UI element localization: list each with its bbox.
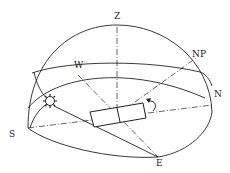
label-north-pole: NP [192, 50, 206, 59]
label-south: S [9, 130, 15, 139]
label-east: E [156, 159, 163, 168]
label-west: W [74, 61, 83, 70]
sun-path-arc-inner [28, 78, 205, 108]
label-zenith: Z [114, 12, 120, 21]
meridian-arc-lower [30, 104, 48, 128]
label-north: N [214, 90, 222, 99]
sun-icon [43, 94, 57, 108]
celestial-hemisphere-diagram [0, 0, 230, 173]
sun-path-arc-outer [32, 63, 212, 86]
tracker-panel-icon [90, 103, 146, 127]
